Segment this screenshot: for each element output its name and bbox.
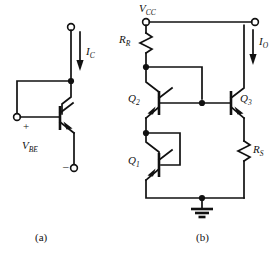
vcc-terminal-circle (143, 19, 150, 26)
vbe-label: VBE (22, 140, 38, 154)
resistor-rr (140, 25, 152, 67)
caption-b: (b) (196, 232, 209, 243)
base-feedback-wire (17, 81, 71, 114)
q1-base-feedback-wire (146, 133, 180, 165)
q2-base-feedback-wire (146, 67, 202, 99)
circuit-figure: IC + VBE – (a) VCC IO RR RS Q2 Q3 Q1 (b) (0, 0, 276, 255)
output-terminal-circle (252, 19, 259, 26)
q3-collector-wire (231, 25, 244, 98)
panel-b-schematic (140, 19, 258, 217)
q2-collector-wire (146, 67, 159, 98)
ground-symbol (191, 198, 213, 217)
resistor-rs (238, 118, 250, 198)
io-current-arrow (249, 30, 256, 65)
q1-collector-lead (159, 150, 172, 160)
collector-terminal-circle (68, 24, 75, 31)
q1-collector-wire (146, 133, 159, 158)
base-terminal-circle (14, 114, 21, 121)
q2-label: Q2 (128, 93, 140, 107)
emitter-terminal-circle (71, 165, 78, 172)
q1-label: Q1 (128, 155, 140, 169)
ic-current-arrow (76, 32, 83, 71)
ic-label: IC (86, 46, 95, 60)
bottom-rail (146, 180, 244, 198)
rs-label: RS (253, 144, 263, 158)
vcc-label: VCC (139, 3, 156, 17)
plus-sign-label: + (23, 121, 29, 132)
base-rail-node-dot (199, 100, 205, 106)
schematic-svg (0, 0, 276, 255)
rr-label: RR (119, 34, 130, 48)
q3-label: Q3 (240, 93, 252, 107)
io-label: IO (259, 36, 268, 50)
q2-collector-lead (159, 88, 172, 98)
minus-sign-label: – (63, 161, 69, 172)
caption-a: (a) (35, 232, 47, 243)
